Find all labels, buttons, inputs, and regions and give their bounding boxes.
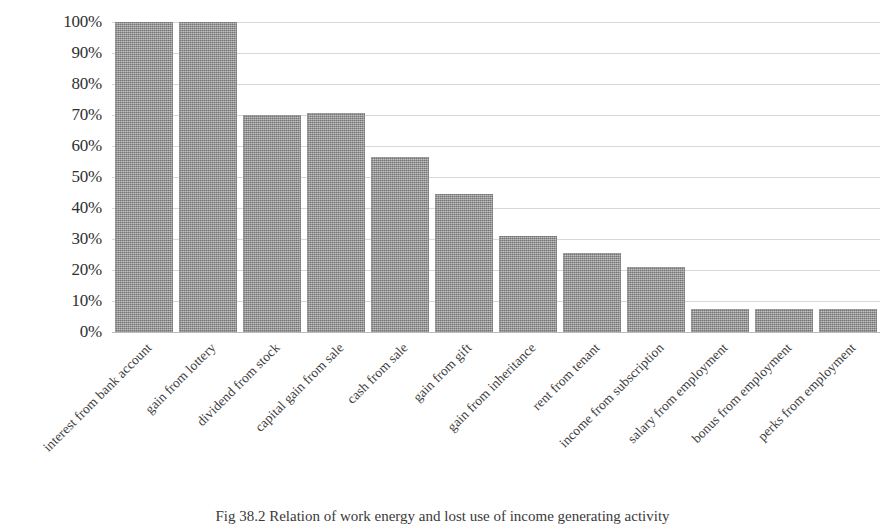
bar-slot [304,22,368,332]
bar [115,22,174,332]
bar [371,157,430,332]
y-axis-tick-label: 0% [80,322,102,342]
bar-slot [624,22,688,332]
bar [243,115,302,332]
bar-slot [176,22,240,332]
figure-caption: Fig 38.2 Relation of work energy and los… [0,508,885,532]
plot-area [112,22,880,332]
bar-slot [752,22,816,332]
y-axis-tick-label: 80% [71,74,102,94]
bar [179,22,238,332]
y-axis-tick-label: 60% [71,136,102,156]
y-axis-tick-label: 50% [71,167,102,187]
bar [691,309,750,332]
x-axis-tick-label: gain from gift [410,340,475,405]
bar [307,113,366,332]
bar-slot [560,22,624,332]
bar-slot [496,22,560,332]
x-axis-tick-label: cash from sale [344,340,411,407]
axis-baseline [112,332,880,333]
x-axis: interest from bank accountgain from lott… [112,336,880,496]
y-axis-tick-label: 20% [71,260,102,280]
y-axis-tick-label: 90% [71,43,102,63]
bar-slot [368,22,432,332]
bar-slot [816,22,880,332]
bar [563,253,622,332]
bar-series [112,22,880,332]
bar [755,309,814,332]
bar-slot [432,22,496,332]
y-axis-tick-label: 100% [63,12,102,32]
bar [435,194,494,332]
bar [627,267,686,332]
y-axis-tick-label: 30% [71,229,102,249]
x-axis-tick-label: interest from bank account [40,340,155,455]
y-axis-tick-label: 10% [71,291,102,311]
bar [499,236,558,332]
bar [819,309,878,332]
bar-slot [240,22,304,332]
bar-slot [112,22,176,332]
y-axis-tick-label: 40% [71,198,102,218]
bar-slot [688,22,752,332]
x-axis-tick-label: income from subscription [556,340,667,451]
y-axis: 100%90%80%70%60%50%40%30%20%10%0% [40,22,106,332]
figure-container: 100%90%80%70%60%50%40%30%20%10%0% intere… [0,0,885,532]
y-axis-tick-label: 70% [71,105,102,125]
